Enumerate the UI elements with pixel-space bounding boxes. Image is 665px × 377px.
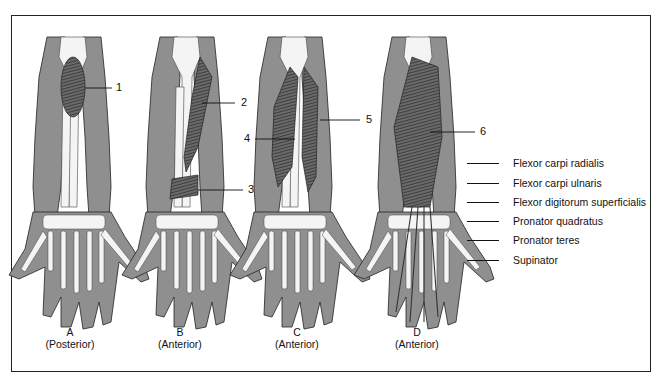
legend-line — [467, 221, 499, 222]
legend-item: Pronator teres — [467, 233, 580, 247]
marker-3: 3 — [248, 183, 254, 195]
marker-4: 4 — [244, 132, 250, 144]
legend-line — [467, 260, 499, 261]
marker-2: 2 — [241, 96, 247, 108]
legend-item: Supinator — [467, 253, 558, 267]
panel-b-illustration — [122, 37, 262, 329]
legend-line — [467, 202, 499, 203]
marker-6: 6 — [480, 125, 486, 137]
legend-line — [467, 183, 499, 184]
legend-item: Pronator quadratus — [467, 214, 603, 228]
panel-a-illustration — [9, 37, 149, 329]
legend-item: Flexor carpi ulnaris — [467, 176, 602, 190]
caption-d: D(Anterior) — [377, 326, 457, 350]
legend-line — [467, 163, 499, 164]
marker-5: 5 — [366, 113, 372, 125]
marker-1: 1 — [116, 81, 122, 93]
legend-line — [467, 240, 499, 241]
legend-item: Flexor digitorum superficialis — [467, 195, 646, 209]
caption-c: C(Anterior) — [257, 326, 337, 350]
caption-a: A(Posterior) — [30, 326, 110, 350]
legend-item: Flexor carpi radialis — [467, 156, 604, 170]
caption-b: B(Anterior) — [140, 326, 220, 350]
